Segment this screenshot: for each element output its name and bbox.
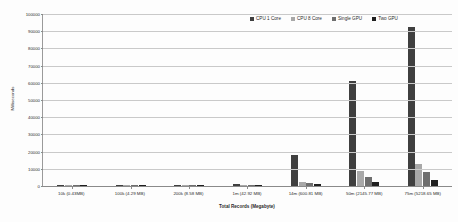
y-axis-tick <box>41 186 44 187</box>
y-axis-tick-label: 50000 <box>14 98 40 103</box>
x-axis-tick-label: 100k (4.29 MB) <box>101 190 160 200</box>
y-axis-tick <box>41 169 44 170</box>
y-axis-tick-label: 40000 <box>14 115 40 120</box>
gridline <box>43 186 452 187</box>
bar[interactable] <box>291 155 298 186</box>
x-axis-tick-labels: 10k (0.43MB)100k (4.29 MB)200k (8.58 MB)… <box>42 190 452 200</box>
y-axis-tick <box>41 48 44 49</box>
gridline <box>43 66 452 67</box>
y-axis-tick-label: 70000 <box>14 63 40 68</box>
gridline <box>43 152 452 153</box>
gridline <box>43 14 452 15</box>
gridline <box>43 83 452 84</box>
y-axis-tick <box>41 152 44 153</box>
gridline <box>43 48 452 49</box>
gridline <box>43 117 452 118</box>
gridline <box>43 134 452 135</box>
bar[interactable] <box>415 164 422 186</box>
bar[interactable] <box>365 177 372 186</box>
plot-area: Milliseconds 010000200003000040000500006… <box>0 0 458 222</box>
y-axis-tick <box>41 66 44 67</box>
y-axis-tick-label: 30000 <box>14 132 40 137</box>
gridline <box>43 169 452 170</box>
gridline <box>43 31 452 32</box>
y-axis-tick <box>41 134 44 135</box>
x-axis-title: Total Records (Megabyte) <box>42 204 452 209</box>
y-axis-tick <box>41 100 44 101</box>
bar[interactable] <box>423 172 430 186</box>
bar[interactable] <box>357 171 364 186</box>
y-axis-tick-label: 10000 <box>14 166 40 171</box>
y-axis-tick-label: 60000 <box>14 80 40 85</box>
x-axis-tick-label: 1m (42.92 MB) <box>218 190 277 200</box>
y-axis-tick-label: 100000 <box>14 12 40 17</box>
y-axis-tick-label: 90000 <box>14 29 40 34</box>
y-axis-tick <box>41 14 44 15</box>
x-axis-tick-label: 14m (600.81 MB) <box>276 190 335 200</box>
x-axis-tick-label: 200k (8.58 MB) <box>159 190 218 200</box>
y-axis-tick-labels: 0100002000030000400005000060000700008000… <box>14 14 40 186</box>
y-axis-tick <box>41 31 44 32</box>
y-axis-tick <box>41 117 44 118</box>
y-axis-tick-label: 0 <box>14 184 40 189</box>
y-axis-tick-label: 80000 <box>14 46 40 51</box>
x-axis-tick-label: 75m (5218.65 MB) <box>393 190 452 200</box>
y-axis-tick <box>41 83 44 84</box>
x-axis-tick-label: 50m (2145.77 MB) <box>335 190 394 200</box>
x-axis-tick-label: 10k (0.43MB) <box>42 190 101 200</box>
bar[interactable] <box>408 27 415 186</box>
gridline <box>43 100 452 101</box>
bar-chart: CPU 1 Core CPU 8 Core Single GPU Two GPU… <box>0 0 458 222</box>
y-axis-tick-label: 20000 <box>14 149 40 154</box>
chart-grid <box>42 14 452 186</box>
